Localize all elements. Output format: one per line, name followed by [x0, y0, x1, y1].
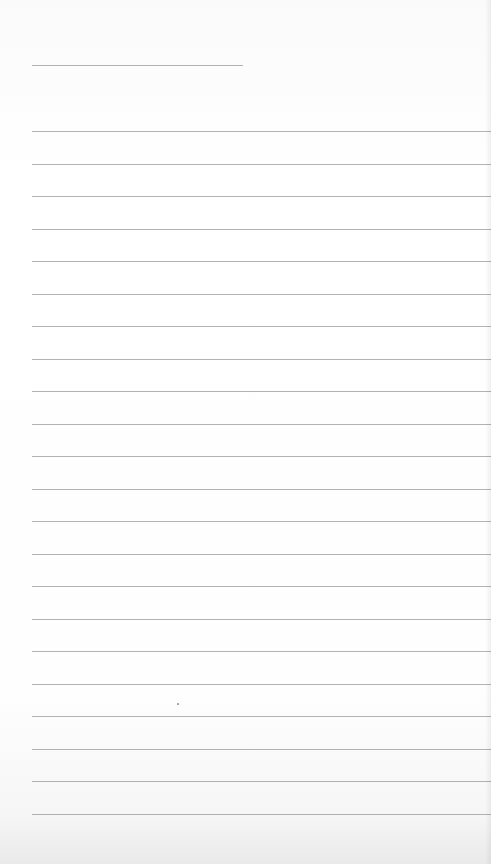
ruled-line — [32, 164, 491, 165]
ruled-line — [32, 424, 491, 425]
ruled-line — [32, 684, 491, 685]
stray-pencil-mark — [177, 703, 180, 706]
ruled-line — [32, 586, 491, 587]
ruled-line — [32, 781, 491, 782]
ruled-line — [32, 359, 491, 360]
ruled-line — [32, 229, 491, 230]
header-name-line — [32, 65, 243, 66]
ruled-line — [32, 391, 491, 392]
ruled-line — [32, 489, 491, 490]
ruled-line — [32, 716, 491, 717]
ruled-line — [32, 131, 491, 132]
lined-paper-sheet — [0, 0, 491, 864]
ruled-line — [32, 619, 491, 620]
ruled-line — [32, 521, 491, 522]
ruled-line — [32, 196, 491, 197]
page-edge-shadow — [485, 0, 491, 864]
ruled-line — [32, 326, 491, 327]
ruled-line — [32, 554, 491, 555]
ruled-line — [32, 749, 491, 750]
ruled-line — [32, 294, 491, 295]
page-bottom-shade — [0, 814, 491, 864]
ruled-line — [32, 456, 491, 457]
ruled-line — [32, 651, 491, 652]
ruled-line — [32, 261, 491, 262]
